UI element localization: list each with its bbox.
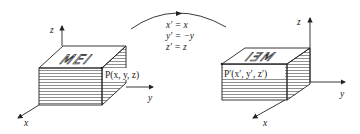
- arrowhead: [176, 11, 182, 16]
- right-x-label: x: [262, 118, 268, 128]
- left-z-label: z: [49, 25, 54, 35]
- right-point-p-prime: [221, 63, 224, 66]
- right-point-label: P′(x′, y′, z′): [224, 69, 267, 80]
- right-figure: z y x IƎM P′(x′, y′, z′): [221, 17, 345, 128]
- left-x-label: x: [23, 118, 29, 128]
- right-z-label: z: [296, 17, 301, 27]
- transformation-arrow: x′ = x y′ = −y z′ = z: [131, 11, 226, 52]
- left-figure: z y x MEI P(x, y, z): [18, 25, 153, 128]
- left-point-label: P(x, y, z): [105, 70, 139, 81]
- right-x-axis: [253, 100, 285, 118]
- right-y-label: y: [339, 89, 345, 99]
- equation-x: x′ = x: [165, 20, 188, 30]
- left-y-label: y: [147, 93, 153, 103]
- reflection-diagram: z y x MEI P(x, y, z) x′ = x y′ = −y z′ =…: [0, 0, 360, 134]
- left-x-axis: [18, 105, 39, 118]
- equation-y: y′ = −y: [165, 31, 195, 41]
- left-point-p: [101, 67, 104, 70]
- equation-z: z′ = z: [165, 42, 187, 52]
- left-box-front: [39, 68, 102, 105]
